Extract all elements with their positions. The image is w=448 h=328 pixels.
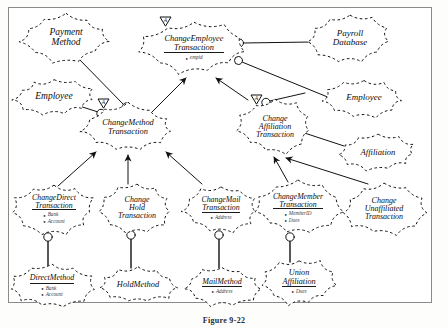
attribute: Address	[212, 288, 233, 295]
node-title-direct-method: DirectMethod	[30, 274, 75, 283]
node-title-mail-method: MailMethod	[202, 278, 242, 287]
node-mail-method[interactable]: MailMethodAddress	[184, 266, 260, 306]
node-title-payroll-database: Payroll Database	[333, 29, 368, 47]
node-direct-method[interactable]: DirectMethodBankAccount	[12, 264, 92, 308]
node-employee-right[interactable]: Employee	[324, 78, 404, 118]
node-title-hold-method: HoldMethod	[117, 281, 159, 290]
node-title-union-affiliation: Union Affiliation	[282, 269, 315, 287]
node-title-payment-method: Payment Method	[49, 28, 82, 47]
attribute: Dues	[291, 288, 306, 295]
node-payroll-database[interactable]: Payroll Database	[310, 14, 390, 62]
node-title-change-hold-transaction: Change Hold Transaction	[118, 196, 156, 220]
node-change-direct-transaction[interactable]: ChangeDirect TransactionBankAccount	[14, 184, 94, 234]
svg-text:A: A	[101, 99, 106, 105]
attribute-list-direct-method: BankAccount	[41, 285, 62, 298]
node-title-change-member-transaction: ChangeMember Transaction	[273, 193, 323, 210]
node-change-mail-transaction[interactable]: ChangeMail TransactionAddress	[182, 184, 260, 232]
abstract-marker-change-employee-transaction: A	[159, 13, 172, 24]
svg-text:A: A	[162, 17, 167, 23]
svg-text:A: A	[254, 95, 259, 101]
attribute-list-union-affiliation: Dues	[291, 288, 306, 295]
node-change-unaffiliated-transaction[interactable]: Change Unaffiliated Transaction	[344, 184, 424, 234]
node-title-change-affiliation-transaction: Change Affiliation Transaction	[256, 115, 294, 139]
attribute: Address	[211, 214, 232, 221]
figure-canvas: Payment MethodChangeEmployee Transaction…	[0, 0, 448, 328]
attribute: Account	[41, 291, 62, 298]
attribute: Account	[43, 218, 64, 225]
node-affiliation[interactable]: Affiliation	[340, 134, 416, 170]
node-change-method-transaction[interactable]: ChangeMethod Transaction	[82, 104, 174, 152]
node-title-change-direct-transaction: ChangeDirect Transaction	[32, 194, 76, 211]
node-title-change-mail-transaction: ChangeMail Transaction	[202, 196, 241, 213]
node-title-change-employee-transaction: ChangeEmployee Transaction	[164, 35, 223, 53]
node-title-employee-right: Employee	[346, 93, 381, 102]
attribute-list-change-direct-transaction: BankAccount	[43, 211, 64, 224]
attribute-list-change-employee-transaction: empid	[185, 54, 202, 61]
attribute: empid	[185, 54, 202, 61]
attribute: Dues	[284, 217, 299, 224]
attribute-list-change-member-transaction: MemberIDDues	[284, 210, 311, 223]
attribute-list-mail-method: Address	[212, 288, 233, 295]
node-change-member-transaction[interactable]: ChangeMember TransactionMemberIDDues	[256, 182, 340, 234]
node-change-employee-transaction[interactable]: ChangeEmployee Transactionempid	[142, 22, 246, 74]
node-change-hold-transaction[interactable]: Change Hold Transaction	[100, 182, 174, 234]
node-title-affiliation: Affiliation	[361, 148, 396, 157]
abstract-marker-change-affiliation-transaction: A	[250, 91, 263, 102]
node-title-change-unaffiliated-transaction: Change Unaffiliated Transaction	[365, 197, 404, 221]
attribute-list-change-mail-transaction: Address	[211, 214, 232, 221]
node-union-affiliation[interactable]: Union AffiliationDues	[262, 258, 336, 306]
node-change-affiliation-transaction[interactable]: Change Affiliation Transaction	[238, 100, 312, 154]
node-payment-method[interactable]: Payment Method	[22, 14, 110, 62]
node-hold-method[interactable]: HoldMethod	[100, 266, 176, 304]
figure-caption: Figure 9-22	[0, 316, 448, 328]
node-title-change-method-transaction: ChangeMethod Transaction	[102, 119, 154, 136]
abstract-marker-change-method-transaction: A	[97, 95, 110, 106]
node-title-employee-left: Employee	[35, 92, 72, 102]
